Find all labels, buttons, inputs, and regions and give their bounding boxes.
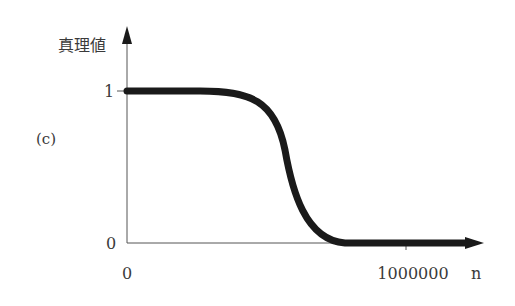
x-tick-label-0: 0 xyxy=(122,264,132,283)
truth-value-curve xyxy=(127,91,470,243)
truth-value-chart: 真理値 1 0 (c) 0 1000000 n xyxy=(0,0,515,306)
y-axis-arrow-icon xyxy=(122,26,132,44)
y-tick-label-0: 0 xyxy=(106,234,116,253)
x-tick-label-1000000: 1000000 xyxy=(377,264,448,283)
y-tick-label-1: 1 xyxy=(104,82,114,101)
panel-label: (c) xyxy=(36,130,56,148)
x-axis-label: n xyxy=(471,264,481,283)
y-axis-label: 真理値 xyxy=(58,36,106,55)
